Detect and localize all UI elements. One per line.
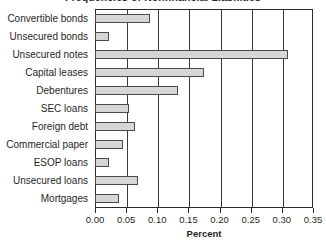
x-tick bbox=[126, 208, 127, 213]
x-tick-label: 0.05 bbox=[117, 214, 136, 225]
category-label: Unsecured bonds bbox=[0, 27, 91, 45]
x-tick bbox=[188, 208, 189, 213]
bar-chart: Frequencies of Nonfinancial Liabilities … bbox=[0, 0, 326, 243]
x-tick-label: 0.25 bbox=[241, 214, 260, 225]
bar bbox=[95, 86, 178, 95]
bar-row bbox=[95, 154, 313, 172]
category-label: Mortgages bbox=[0, 190, 91, 208]
bar-row bbox=[95, 136, 313, 154]
x-tick-label: 0.15 bbox=[179, 214, 198, 225]
bar bbox=[95, 14, 150, 23]
bars-container bbox=[95, 9, 313, 208]
bar bbox=[95, 122, 135, 131]
x-tick bbox=[251, 208, 252, 213]
x-tick-label: 0.35 bbox=[304, 214, 323, 225]
category-label: Commercial paper bbox=[0, 136, 91, 154]
category-label: Convertible bonds bbox=[0, 9, 91, 27]
category-label: Unsecured notes bbox=[0, 45, 91, 63]
bar-row bbox=[95, 99, 313, 117]
bar-row bbox=[95, 81, 313, 99]
category-label: ESOP loans bbox=[0, 154, 91, 172]
bar bbox=[95, 158, 109, 167]
category-label: Unsecured loans bbox=[0, 172, 91, 190]
bar-row bbox=[95, 27, 313, 45]
bar-row bbox=[95, 9, 313, 27]
bar bbox=[95, 32, 109, 41]
bar-row bbox=[95, 172, 313, 190]
bar bbox=[95, 194, 119, 203]
x-tick-label: 0.00 bbox=[86, 214, 105, 225]
category-label: Debentures bbox=[0, 81, 91, 99]
bar-row bbox=[95, 63, 313, 81]
bar-row bbox=[95, 45, 313, 63]
bar bbox=[95, 140, 123, 149]
bar-row bbox=[95, 117, 313, 135]
bar bbox=[95, 104, 129, 113]
x-tick-label: 0.30 bbox=[273, 214, 292, 225]
bar-row bbox=[95, 190, 313, 208]
category-label: Capital leases bbox=[0, 63, 91, 81]
bar bbox=[95, 176, 138, 185]
bar bbox=[95, 68, 204, 77]
category-label: SEC loans bbox=[0, 99, 91, 117]
chart-title: Frequencies of Nonfinancial Liabilities bbox=[0, 0, 326, 3]
x-tick-label: 0.10 bbox=[148, 214, 167, 225]
x-axis: 0.000.050.100.150.200.250.300.35 bbox=[95, 208, 313, 209]
category-label: Foreign debt bbox=[0, 117, 91, 135]
category-axis-labels: Convertible bondsUnsecured bondsUnsecure… bbox=[0, 9, 91, 208]
bar bbox=[95, 50, 288, 59]
x-tick bbox=[220, 208, 221, 213]
x-tick bbox=[95, 208, 96, 213]
x-tick bbox=[282, 208, 283, 213]
x-tick bbox=[157, 208, 158, 213]
x-axis-title: Percent bbox=[95, 228, 313, 239]
x-tick-label: 0.20 bbox=[210, 214, 229, 225]
x-tick bbox=[313, 208, 314, 213]
